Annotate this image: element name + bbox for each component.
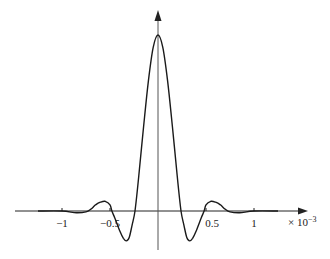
x-tick-label: 0.5	[205, 217, 219, 229]
x-tick-label: −1	[56, 217, 68, 229]
x-multiplier-label: × 10−3	[288, 215, 316, 228]
x-tick-label: 1	[251, 217, 257, 229]
y-axis	[155, 10, 162, 250]
chart-plot: −1−0.50.51 × 10−3	[0, 0, 330, 259]
y-axis-arrow-icon	[155, 10, 162, 21]
x-axis-arrow-icon	[298, 208, 308, 215]
